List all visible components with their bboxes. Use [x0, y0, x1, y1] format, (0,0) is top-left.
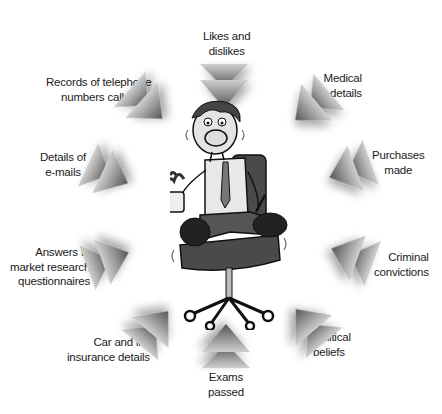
- arrow-emails-icon: [71, 137, 145, 211]
- arrow-criminal-icon: [316, 220, 388, 292]
- label-line: dislikes: [203, 44, 250, 59]
- label-likes-and-dislikes: Likes and dislikes: [203, 29, 250, 58]
- label-line: passed: [208, 385, 244, 400]
- label-line: Likes and: [203, 29, 250, 44]
- label-line: Purchases: [372, 148, 425, 163]
- label-line: insurance details: [67, 350, 150, 365]
- label-line: Details of: [40, 150, 86, 165]
- label-exams-passed: Exams passed: [208, 370, 244, 399]
- label-line: convictions: [374, 265, 429, 280]
- label-line: questionnaires: [10, 274, 90, 289]
- arrow-purchases-icon: [314, 134, 386, 206]
- cartoon-man-on-chair: [170, 100, 290, 330]
